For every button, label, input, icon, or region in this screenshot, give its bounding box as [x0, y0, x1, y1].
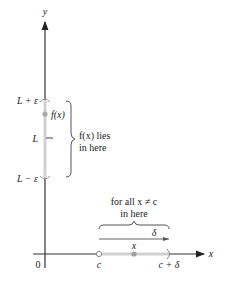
y-brace-text-2: in here	[79, 142, 107, 153]
y-brace	[66, 101, 75, 177]
epsilon-delta-diagram: y x 0 L + ε L L − ε f(x) f(x) lies in he…	[0, 0, 229, 282]
fx-point	[42, 111, 47, 116]
c-open-point	[96, 251, 101, 256]
delta-label: δ	[152, 227, 157, 238]
L-label: L	[31, 133, 38, 144]
lower-bound-label: L − ε	[16, 173, 38, 184]
x-brace-text-2: in here	[120, 208, 148, 219]
x-brace	[99, 221, 169, 229]
y-axis-label: y	[42, 6, 48, 17]
x-brace-text-1: for all x ≠ c	[111, 196, 158, 207]
x-point-label: x	[131, 240, 137, 251]
fx-point-label: f(x)	[51, 109, 66, 121]
c-plus-delta-label: c + δ	[159, 259, 180, 270]
x-point	[131, 251, 136, 256]
c-label: c	[97, 259, 102, 270]
y-brace-text-1: f(x) lies	[79, 130, 110, 142]
origin-label: 0	[36, 259, 41, 270]
upper-bound-label: L + ε	[16, 95, 38, 106]
x-axis-label: x	[208, 248, 214, 259]
